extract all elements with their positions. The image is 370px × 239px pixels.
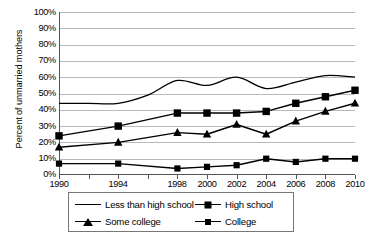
data-point — [352, 156, 358, 162]
data-point — [174, 165, 180, 171]
data-point — [351, 87, 358, 94]
data-point — [174, 109, 181, 116]
legend-label: Less than high school — [105, 199, 194, 210]
legend-label: High school — [225, 199, 273, 210]
plain-line-icon — [75, 199, 101, 211]
legend-item-some-college: Some college — [75, 216, 195, 228]
data-point — [322, 156, 328, 162]
data-point — [173, 128, 181, 136]
data-point — [263, 156, 269, 162]
square-marker-icon — [195, 199, 221, 211]
data-point — [293, 159, 299, 165]
data-point — [351, 99, 359, 107]
data-point — [322, 93, 329, 100]
data-point — [203, 109, 210, 116]
legend-item-less-than-high-school: Less than high school — [75, 199, 195, 211]
data-point — [115, 122, 122, 129]
data-point — [56, 160, 62, 166]
legend-label: Some college — [105, 216, 161, 227]
triangle-marker-icon — [75, 216, 101, 228]
data-point — [55, 132, 62, 139]
legend-label: College — [225, 216, 256, 227]
data-point — [115, 160, 121, 166]
small-square-marker-icon — [195, 216, 221, 228]
data-point — [232, 120, 240, 128]
series-some-college — [55, 99, 359, 151]
data-point — [204, 164, 210, 170]
series-college — [56, 156, 358, 172]
chart-legend: Less than high school High school Some c… — [68, 192, 294, 232]
data-point — [234, 162, 240, 168]
legend-item-college: College — [195, 216, 288, 228]
data-point — [263, 108, 270, 115]
legend-item-high-school: High school — [195, 199, 288, 211]
data-point — [292, 100, 299, 107]
data-point — [233, 109, 240, 116]
